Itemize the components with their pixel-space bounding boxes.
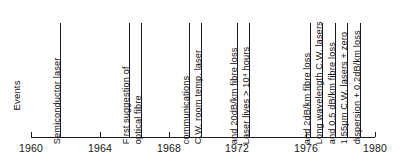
x-axis-tick-label: 1968: [157, 142, 181, 154]
event-label: Laser lives > 10⁴ hours: [242, 47, 251, 145]
event-label: dispersion + 0.2dB/km loss: [353, 30, 362, 144]
event-label: First suggestion of: [122, 66, 131, 144]
timeline-chart: 196019641968197219761980 Semiconductor l…: [0, 0, 400, 164]
event-label: Long wavelength C.W. lasers: [315, 21, 324, 144]
event-label: C.W. room temp. laser: [194, 50, 203, 145]
x-axis-tick-label: 1964: [88, 142, 112, 154]
event-label: communications: [182, 76, 191, 144]
event-label: and 20dB/km fibre loss: [230, 47, 239, 144]
x-axis-tick: [100, 132, 101, 137]
event-label: Semiconductor laser: [53, 58, 62, 145]
x-axis-tick: [375, 132, 376, 137]
x-axis-tick: [169, 132, 170, 137]
event-label: and 0.5 dB/km fibre loss: [328, 42, 337, 144]
event-label: and 2dB/km fibre loss: [303, 53, 312, 145]
x-axis-tick-label: 1980: [363, 142, 387, 154]
x-axis-tick: [31, 132, 32, 137]
event-label: 1.55μm C.W. lasers + zero: [340, 32, 349, 144]
x-axis-tick-label: 1960: [19, 142, 43, 154]
event-label: optical fibre: [134, 95, 143, 144]
events-axis-title: Events: [12, 80, 22, 110]
